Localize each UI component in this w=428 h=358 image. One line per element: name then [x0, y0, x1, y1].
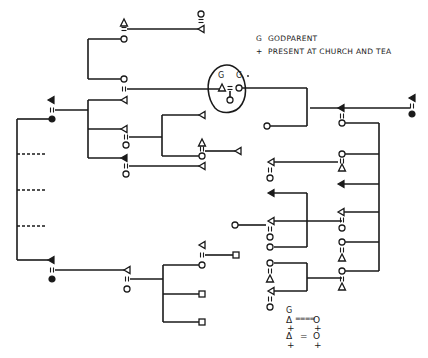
- key-present-female-2: +: [314, 341, 322, 350]
- left-branch: [17, 97, 241, 261]
- key-present-male-2: +: [287, 341, 295, 350]
- legend-symbol-present: +: [256, 47, 263, 56]
- key-dashed-marriage: ====: [295, 316, 314, 323]
- godparent-mark-left: G: [218, 72, 224, 80]
- key-marriage: =: [300, 332, 308, 341]
- legend-symbol-godparent: G: [256, 34, 262, 43]
- legend-label-godparent: GODPARENT: [268, 34, 318, 43]
- right-branch: [310, 95, 415, 291]
- middle-right-branch: [232, 159, 342, 311]
- top-branch: [88, 11, 222, 92]
- left-lower-branch: [48, 242, 239, 326]
- godparent-mark-right: G: [236, 72, 242, 80]
- key-godparent-mark: G: [286, 307, 292, 315]
- legend-label-present: PRESENT AT CHURCH AND TEA: [268, 47, 391, 56]
